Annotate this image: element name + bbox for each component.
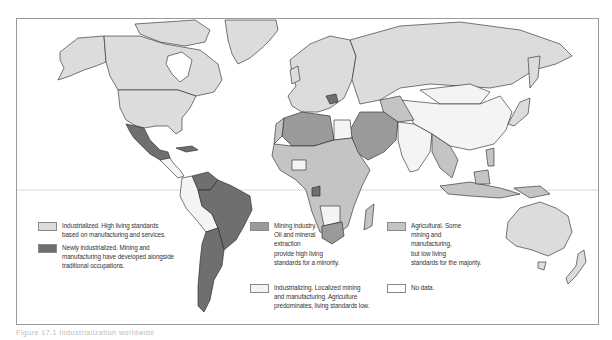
region-central-america [160, 158, 184, 178]
legend-item-industrialized: Industrialized. High living standards ba… [38, 221, 180, 239]
region-canada [104, 36, 222, 96]
region-kamchatka [528, 56, 540, 88]
region-alaska [58, 36, 106, 80]
legend-item-newly-industrialized: Newly industrialized. Mining and manufac… [38, 243, 189, 271]
region-philippines [486, 148, 494, 166]
legend-label: Agricultural. Some mining and manufactur… [411, 221, 481, 267]
swatch-agricultural-icon [387, 222, 406, 231]
region-new-guinea [514, 186, 550, 198]
legend-label: Industrialized. High living standards ba… [62, 221, 166, 239]
region-gabon [312, 186, 320, 196]
region-greenland [225, 20, 278, 64]
legend-item-mining-industry: Mining industry. Oil and mineral extract… [250, 221, 348, 267]
swatch-newly-industrialized-icon [38, 244, 57, 253]
swatch-mining-industry-icon [250, 222, 269, 231]
region-new-zealand [566, 250, 586, 284]
legend-label: No data. [411, 283, 434, 292]
region-tasmania [538, 262, 546, 270]
legend-label: Industrializing. Localized mining and ma… [274, 283, 369, 311]
region-borneo [474, 170, 490, 184]
figure-caption: Figure 17.1 Industrialization worldwide [16, 329, 155, 336]
region-cuba [176, 146, 198, 152]
legend-item-industrializing: Industrializing. Localized mining and ma… [250, 283, 382, 311]
swatch-industrializing-icon [250, 284, 269, 293]
legend-label: Mining industry. Oil and mineral extract… [274, 221, 339, 267]
region-madagascar [364, 204, 374, 230]
region-africa-industrializing-west [292, 160, 306, 170]
region-australia [506, 202, 572, 256]
region-mexico [126, 124, 170, 160]
region-southern-cone [198, 228, 224, 312]
legend-item-no-data: No data. [387, 283, 437, 293]
region-north-africa-mining [282, 112, 334, 146]
region-morocco [274, 118, 284, 144]
swatch-industrialized-icon [38, 222, 57, 231]
swatch-no-data-icon [387, 284, 406, 293]
legend-item-agricultural: Agricultural. Some mining and manufactur… [387, 221, 491, 267]
legend-label: Newly industrialized. Mining and manufac… [62, 243, 174, 271]
region-egypt [334, 120, 352, 140]
